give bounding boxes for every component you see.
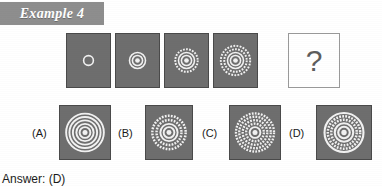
concentric-rings-option-d-icon (317, 106, 371, 159)
option-label-a: (A) (32, 127, 47, 139)
concentric-rings-3-icon (165, 34, 208, 87)
option-panel-c[interactable] (229, 105, 281, 160)
concentric-rings-option-b-icon (146, 106, 192, 159)
sequence-panel-4 (213, 33, 258, 88)
option-panel-a[interactable] (59, 105, 111, 160)
sequence-panel-2 (115, 33, 160, 88)
option-label-b: (B) (118, 127, 133, 139)
sequence-panel-unknown: ? (288, 33, 340, 88)
option-label-d: (D) (289, 127, 304, 139)
concentric-rings-4-icon (214, 34, 257, 87)
sequence-panel-3 (164, 33, 209, 88)
example-banner: Example 4 (0, 2, 104, 25)
concentric-rings-2-icon (116, 34, 159, 87)
option-panel-b[interactable] (145, 105, 193, 160)
option-label-c: (C) (202, 127, 217, 139)
concentric-rings-option-c-icon (230, 106, 280, 159)
concentric-rings-option-a-icon (60, 106, 110, 159)
question-mark-icon: ? (306, 46, 323, 76)
example-title: Example 4 (20, 6, 85, 22)
option-panel-d[interactable] (316, 105, 372, 160)
concentric-rings-1-icon (67, 34, 110, 87)
answer-text: Answer: (D) (2, 172, 65, 186)
sequence-panel-1 (66, 33, 111, 88)
example-figure: Example 4 ? (A) (B) (C) (D) Answer: (D) (0, 0, 382, 186)
